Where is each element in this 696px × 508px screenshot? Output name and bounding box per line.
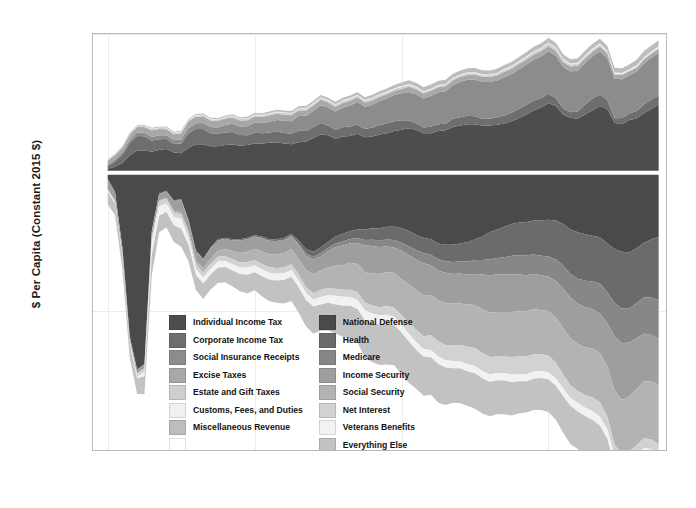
legend-item[interactable]: Customs, Fees, and Duties bbox=[169, 402, 303, 420]
legend-swatch bbox=[169, 438, 186, 451]
legend-item[interactable]: Income Security bbox=[319, 367, 415, 385]
legend-item[interactable]: Social Security bbox=[319, 384, 415, 402]
legend-item[interactable] bbox=[169, 437, 303, 452]
legend-item[interactable]: Corporate Income Tax bbox=[169, 332, 303, 350]
legend-item-label: Corporate Income Tax bbox=[193, 336, 283, 345]
legend-item-label: Social Security bbox=[343, 388, 405, 397]
legend-item[interactable]: Medicare bbox=[319, 349, 415, 367]
legend-swatch bbox=[319, 385, 336, 400]
legend-item-label: Customs, Fees, and Duties bbox=[193, 406, 303, 415]
legend-swatch bbox=[169, 403, 186, 418]
y-tick bbox=[92, 311, 93, 312]
legend-item-label: Miscellaneous Revenue bbox=[193, 423, 290, 432]
plot-area: 100000-10000-200001940196019802000 Indiv… bbox=[92, 33, 667, 451]
legend-item[interactable]: Health bbox=[319, 332, 415, 350]
legend-item-label: Health bbox=[343, 336, 369, 345]
legend-item-label: Individual Income Tax bbox=[193, 318, 282, 327]
y-tick bbox=[92, 450, 93, 451]
legend-swatch bbox=[319, 420, 336, 435]
legend-swatch bbox=[319, 350, 336, 365]
legend-swatch bbox=[169, 420, 186, 435]
legend-item[interactable]: Estate and Gift Taxes bbox=[169, 384, 303, 402]
legend-column-revenue: Individual Income TaxCorporate Income Ta… bbox=[169, 314, 303, 451]
y-tick bbox=[92, 34, 93, 35]
legend-item-label: National Defense bbox=[343, 318, 413, 327]
legend-item-label: Social Insurance Receipts bbox=[193, 353, 300, 362]
x-tick bbox=[402, 450, 403, 451]
legend-item[interactable]: National Defense bbox=[319, 314, 415, 332]
legend-column-spending: National DefenseHealthMedicareIncome Sec… bbox=[319, 314, 415, 451]
y-axis-title: $ Per Capita (Constant 2015 $) bbox=[30, 104, 42, 344]
legend-item[interactable]: Everything Else bbox=[319, 437, 415, 452]
x-tick bbox=[255, 450, 256, 451]
legend-item-label: Veterans Benefits bbox=[343, 423, 415, 432]
legend-item-label: Excise Taxes bbox=[193, 371, 246, 380]
legend-item-label: Net Interest bbox=[343, 406, 390, 415]
legend-swatch bbox=[319, 403, 336, 418]
legend-item[interactable]: Net Interest bbox=[319, 402, 415, 420]
legend-swatch bbox=[169, 350, 186, 365]
x-tick bbox=[108, 450, 109, 451]
legend-item[interactable]: Individual Income Tax bbox=[169, 314, 303, 332]
legend-swatch bbox=[169, 368, 186, 383]
legend-item[interactable]: Excise Taxes bbox=[169, 367, 303, 385]
legend-swatch bbox=[169, 385, 186, 400]
legend-item-label: Everything Else bbox=[343, 441, 407, 450]
legend-swatch bbox=[319, 438, 336, 451]
legend-item[interactable]: Social Insurance Receipts bbox=[169, 349, 303, 367]
legend-swatch bbox=[319, 368, 336, 383]
legend-item[interactable]: Veterans Benefits bbox=[319, 419, 415, 437]
legend-swatch bbox=[319, 315, 336, 330]
legend-item[interactable]: Miscellaneous Revenue bbox=[169, 419, 303, 437]
legend-item-label: Medicare bbox=[343, 353, 380, 362]
gridline-horizontal bbox=[93, 450, 666, 451]
chart-figure: $ Per Capita (Constant 2015 $) 100000-10… bbox=[0, 0, 696, 508]
legend-item-label: Income Security bbox=[343, 371, 409, 380]
y-tick bbox=[92, 173, 93, 174]
legend-swatch bbox=[319, 333, 336, 348]
legend-swatch bbox=[169, 315, 186, 330]
legend-item-label: Estate and Gift Taxes bbox=[193, 388, 280, 397]
x-tick bbox=[548, 450, 549, 451]
legend: Individual Income TaxCorporate Income Ta… bbox=[163, 310, 421, 451]
legend-swatch bbox=[169, 333, 186, 348]
